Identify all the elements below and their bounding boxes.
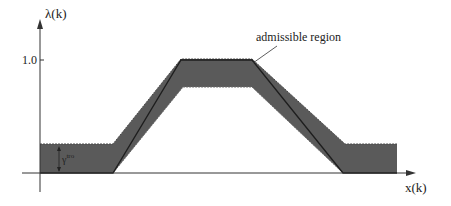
admissible-region-diagram: 1.0 λ(k) x(k) admissible region γtro bbox=[0, 0, 451, 206]
region-label: admissible region bbox=[256, 30, 341, 44]
y-tick-label: 1.0 bbox=[22, 53, 37, 67]
y-axis-arrow-icon bbox=[37, 19, 43, 29]
x-axis-label: x(k) bbox=[405, 180, 427, 195]
admissible-region-band bbox=[40, 59, 397, 173]
region-pointer-line bbox=[253, 46, 277, 63]
x-axis-arrow-icon bbox=[406, 170, 416, 176]
y-axis-label: λ(k) bbox=[45, 6, 66, 21]
gamma-superscript: tro bbox=[66, 152, 74, 160]
